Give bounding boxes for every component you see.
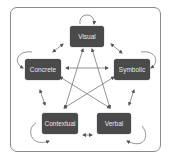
node-contextual: Contextual — [42, 113, 78, 134]
edge-concrete-contextual — [40, 90, 45, 105]
node-concrete: Concrete — [25, 59, 61, 80]
self-loop-visual — [80, 15, 94, 24]
edge-concrete-verbal — [60, 77, 110, 108]
edge-symbolic-contextual — [64, 77, 114, 108]
node-visual: Visual — [70, 26, 104, 47]
connection-arrows — [0, 0, 171, 163]
node-label: Contextual — [44, 120, 75, 127]
node-label: Visual — [78, 33, 96, 40]
node-label: Symbolic — [119, 66, 145, 73]
edge-visual-symbolic — [111, 44, 122, 53]
edge-symbolic-verbal — [129, 90, 134, 105]
edge-visual-concrete — [53, 44, 63, 52]
node-label: Concrete — [30, 66, 56, 73]
edge-visual-verbal — [92, 49, 110, 108]
edge-visual-contextual — [65, 49, 83, 108]
node-label: Verbal — [105, 120, 123, 127]
node-verbal: Verbal — [97, 113, 131, 134]
node-symbolic: Symbolic — [114, 59, 150, 80]
